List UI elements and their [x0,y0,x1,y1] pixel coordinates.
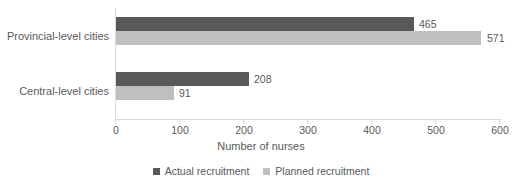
bar-value-actual-provincial-level-cities: 465 [419,17,437,31]
legend-label-actual-recruitment: Actual recruitment [165,165,250,177]
plot-area: 465 571 208 91 [116,8,500,119]
bar-value-planned-provincial-level-cities: 571 [487,31,505,45]
legend-swatch-icon-actual [153,168,160,175]
x-tick-label-400: 400 [363,124,381,136]
x-tick-label-500: 500 [427,124,445,136]
bar-actual-central-level-cities [116,72,249,86]
x-tick-label-100: 100 [171,124,189,136]
bar-actual-provincial-level-cities [116,17,414,31]
bar-planned-central-level-cities [116,86,174,100]
legend-item-actual-recruitment[interactable]: Actual recruitment [153,165,250,177]
category-axis-labels: Provincial-level cities Central-level ci… [0,8,109,119]
chart-legend: Actual recruitment Planned recruitment [0,165,522,177]
bar-chart: Provincial-level cities Central-level ci… [0,0,522,188]
x-tick-label-300: 300 [299,124,317,136]
bar-value-actual-central-level-cities: 208 [254,72,272,86]
x-tick-label-600: 600 [491,124,509,136]
x-tick-label-200: 200 [235,124,253,136]
bar-planned-provincial-level-cities [116,31,481,45]
x-tick-label-0: 0 [113,124,119,136]
x-axis-line [115,119,501,120]
category-label-provincial-level-cities: Provincial-level cities [1,30,109,42]
bar-value-planned-central-level-cities: 91 [179,86,191,100]
legend-item-planned-recruitment[interactable]: Planned recruitment [263,165,369,177]
legend-swatch-icon-planned [263,168,270,175]
category-label-central-level-cities: Central-level cities [1,85,109,97]
legend-label-planned-recruitment: Planned recruitment [275,165,369,177]
x-axis-title: Number of nurses [0,140,522,152]
